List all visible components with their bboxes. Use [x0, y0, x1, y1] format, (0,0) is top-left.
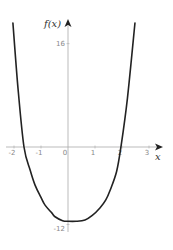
x-axis-label: x: [155, 151, 161, 162]
x-tick-label: -1: [36, 149, 43, 157]
x-tick-label: -2: [9, 149, 16, 157]
y-tick-label: -12: [54, 225, 65, 233]
y-tick-label: 16: [56, 40, 65, 48]
y-axis-label: f(x): [43, 18, 61, 29]
function-curve: [13, 23, 135, 221]
x-tick-label: 1: [91, 149, 95, 157]
x-tick-labels: -2-10123: [9, 149, 150, 157]
x-tick-label: 0: [63, 149, 67, 157]
y-axis-arrow-icon: [65, 19, 72, 27]
x-tick-label: 3: [145, 149, 149, 157]
y-tick-labels: 16-12: [54, 40, 66, 232]
function-plot: -2-10123 16-12 x f(x): [0, 0, 173, 250]
